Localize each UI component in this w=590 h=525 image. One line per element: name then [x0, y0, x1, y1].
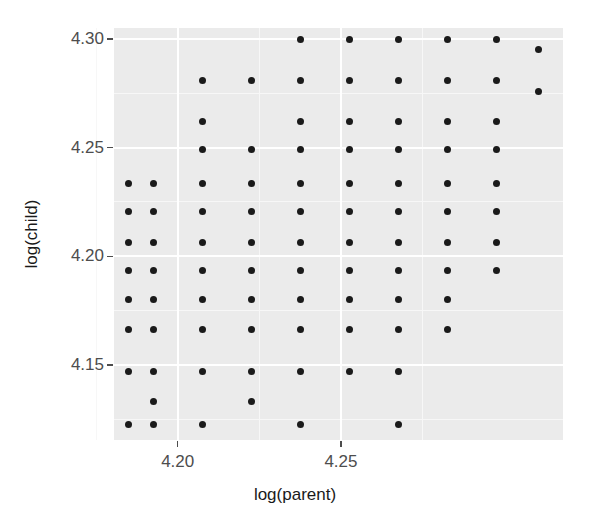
scatter-point — [248, 267, 255, 274]
y-tick-label: 4.15 — [56, 355, 104, 375]
scatter-point — [395, 118, 402, 125]
scatter-point — [395, 296, 402, 303]
scatter-point — [346, 239, 353, 246]
scatter-point — [346, 180, 353, 187]
scatter-point — [346, 77, 353, 84]
scatter-point — [297, 296, 304, 303]
scatter-point — [297, 421, 304, 428]
scatter-point — [199, 180, 206, 187]
scatter-point — [346, 267, 353, 274]
scatter-point — [297, 146, 304, 153]
scatter-point — [346, 118, 353, 125]
scatter-point — [199, 267, 206, 274]
scatter-point — [199, 146, 206, 153]
scatter-point — [199, 368, 206, 375]
scatter-point — [297, 368, 304, 375]
scatter-point — [150, 267, 157, 274]
scatter-point — [125, 239, 132, 246]
scatter-point — [395, 77, 402, 84]
y-axis-title: log(child) — [22, 200, 42, 269]
scatter-point — [444, 296, 451, 303]
x-tick-label: 4.25 — [324, 452, 357, 472]
scatter-point — [444, 326, 451, 333]
scatter-point — [248, 296, 255, 303]
scatter-point — [444, 267, 451, 274]
scatter-point — [444, 208, 451, 215]
scatter-point — [395, 239, 402, 246]
scatter-point — [395, 326, 402, 333]
scatter-point — [199, 239, 206, 246]
scatter-point — [199, 77, 206, 84]
scatter-point — [346, 368, 353, 375]
gridline-vertical-minor — [96, 28, 97, 440]
scatter-point — [493, 208, 500, 215]
scatter-point — [150, 326, 157, 333]
scatter-point — [297, 180, 304, 187]
y-tick-mark — [107, 147, 113, 149]
scatter-point — [444, 77, 451, 84]
scatter-point — [297, 326, 304, 333]
scatter-point — [395, 146, 402, 153]
scatter-point — [297, 208, 304, 215]
gridline-horizontal-major — [114, 255, 563, 257]
x-tick-mark — [177, 441, 179, 447]
scatter-point — [150, 180, 157, 187]
scatter-point — [395, 368, 402, 375]
scatter-point — [199, 296, 206, 303]
scatter-point — [395, 180, 402, 187]
scatter-point — [297, 267, 304, 274]
scatter-point — [535, 88, 542, 95]
scatter-point — [493, 180, 500, 187]
scatter-point — [297, 77, 304, 84]
y-tick-mark — [107, 256, 113, 258]
scatter-point — [199, 421, 206, 428]
x-tick-mark — [340, 441, 342, 447]
gridline-vertical-minor — [422, 28, 423, 440]
scatter-point — [297, 239, 304, 246]
scatter-point — [493, 77, 500, 84]
gridline-vertical-minor — [259, 28, 260, 440]
scatter-point — [395, 208, 402, 215]
y-tick-label: 4.25 — [56, 138, 104, 158]
scatter-point — [493, 146, 500, 153]
gridline-horizontal-minor — [114, 310, 563, 311]
y-tick-label: 4.20 — [56, 246, 104, 266]
scatter-point — [444, 180, 451, 187]
scatter-point — [199, 118, 206, 125]
scatter-point — [346, 208, 353, 215]
scatter-point — [493, 118, 500, 125]
scatter-point — [248, 239, 255, 246]
gridline-horizontal-minor — [114, 93, 563, 94]
scatter-point — [346, 326, 353, 333]
scatter-point — [199, 326, 206, 333]
scatter-point — [493, 267, 500, 274]
chart-figure: 4.304.254.204.15 4.204.25 log(parent) lo… — [0, 0, 590, 525]
scatter-point — [444, 146, 451, 153]
gridline-horizontal-minor — [114, 201, 563, 202]
scatter-point — [150, 368, 157, 375]
scatter-point — [248, 208, 255, 215]
scatter-point — [297, 118, 304, 125]
scatter-point — [248, 368, 255, 375]
scatter-point — [150, 421, 157, 428]
y-tick-label: 4.30 — [56, 29, 104, 49]
y-tick-mark — [107, 364, 113, 366]
scatter-point — [150, 296, 157, 303]
scatter-point — [248, 146, 255, 153]
gridline-vertical-major — [340, 28, 342, 440]
scatter-point — [493, 239, 500, 246]
scatter-point — [444, 118, 451, 125]
scatter-point — [199, 208, 206, 215]
gridline-horizontal-major — [114, 364, 563, 366]
scatter-point — [248, 180, 255, 187]
scatter-point — [248, 326, 255, 333]
scatter-point — [150, 239, 157, 246]
scatter-point — [125, 326, 132, 333]
gridline-vertical-major — [177, 28, 179, 440]
scatter-point — [395, 267, 402, 274]
y-tick-mark — [107, 38, 113, 40]
x-axis-title: log(parent) — [0, 485, 590, 505]
scatter-point — [248, 77, 255, 84]
scatter-point — [444, 239, 451, 246]
gridline-horizontal-minor — [114, 419, 563, 420]
